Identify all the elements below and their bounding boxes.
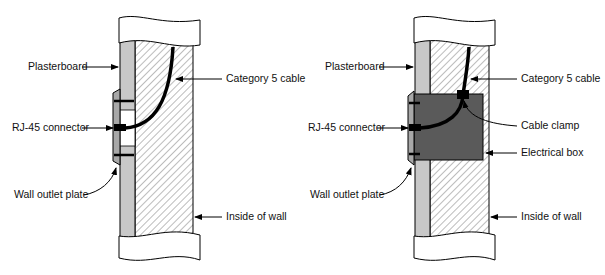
label-wall-outlet-right: Wall outlet plate bbox=[310, 188, 384, 200]
rj45-connector-left bbox=[114, 124, 126, 131]
wall-break-bottom-right bbox=[414, 232, 495, 260]
rj45-connector-right bbox=[409, 124, 421, 131]
label-inside-wall-right: Inside of wall bbox=[521, 210, 582, 222]
arrow-wall-outlet-left bbox=[84, 168, 116, 195]
wall-cavity-left bbox=[135, 40, 193, 240]
label-plasterboard-right: Plasterboard bbox=[325, 60, 385, 72]
right-wall-diagram: Plasterboard Category 5 cable Cable clam… bbox=[308, 16, 601, 260]
label-rj45-left: RJ-45 connector bbox=[12, 121, 90, 133]
label-rj45-right: RJ-45 connector bbox=[308, 121, 386, 133]
label-cable-clamp-right: Cable clamp bbox=[521, 119, 580, 131]
cable-clamp-right bbox=[457, 90, 469, 99]
label-category5-right: Category 5 cable bbox=[521, 72, 601, 84]
arrow-wall-outlet-right bbox=[380, 168, 411, 195]
label-plasterboard-left: Plasterboard bbox=[28, 60, 88, 72]
wall-break-bottom-left bbox=[119, 232, 200, 260]
left-wall-diagram: Plasterboard Category 5 cable RJ-45 conn… bbox=[12, 16, 306, 260]
label-wall-outlet-left: Wall outlet plate bbox=[14, 188, 88, 200]
diagram-canvas: Plasterboard Category 5 cable RJ-45 conn… bbox=[0, 0, 605, 275]
label-category5-left: Category 5 cable bbox=[226, 72, 306, 84]
label-inside-wall-left: Inside of wall bbox=[226, 210, 287, 222]
label-electrical-box-right: Electrical box bbox=[521, 146, 584, 158]
